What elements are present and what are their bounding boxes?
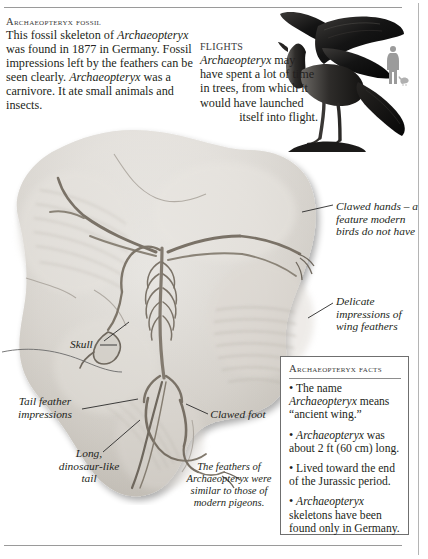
page-root: Archaeopteryx fossil This fossil skeleto… (0, 0, 428, 559)
bottom-divider-rule (4, 545, 402, 546)
intro-section-title: Archaeopteryx fossil (6, 16, 101, 27)
flights-section-title: FLIGHTS (200, 41, 243, 52)
annotation-delicate-impressions: Delicate impressions of wing feathers (336, 295, 426, 333)
fact-item: • Archaeopteryx skeletons have been foun… (289, 495, 401, 535)
annotation-clawed-hands: Clawed hands – a feature modern birds do… (336, 200, 426, 238)
annotation-long-dinosaur-like-tail: Long, dinosaur-like tail (58, 447, 120, 485)
annotation-clawed-foot: Clawed foot (210, 408, 266, 421)
bullet-icon: • (289, 381, 293, 395)
facts-list: • The name Archaeopteryx means “ancient … (289, 382, 401, 535)
bullet-icon: • (289, 461, 293, 475)
human-scale-silhouette (382, 44, 412, 88)
bullet-icon: • (289, 428, 293, 442)
bullet-icon: • (289, 494, 293, 508)
annotation-tail-feather-impressions: Tail feather impressions (10, 395, 80, 420)
fact-item: • Lived toward the end of the Jurassic p… (289, 462, 401, 488)
fact-item: • Archaeopteryx was about 2 ft (60 cm) l… (289, 429, 401, 455)
facts-box-divider (289, 378, 401, 379)
fact-item: • The name Archaeopteryx means “ancient … (289, 382, 401, 422)
caption-feathers: The feathers of Archaeopteryx were simil… (186, 461, 272, 509)
archaeopteryx-facts-box: Archaeopteryx facts • The name Archaeopt… (280, 356, 409, 535)
right-margin-rule (418, 3, 419, 555)
intro-body-text: This fossil skeleton of Archaeopteryx wa… (6, 29, 202, 112)
facts-box-title: Archaeopteryx facts (289, 363, 401, 374)
annotation-skull: Skull (70, 338, 93, 351)
flights-body-text: Archaeopteryx may have spent a lot of ti… (200, 53, 318, 124)
